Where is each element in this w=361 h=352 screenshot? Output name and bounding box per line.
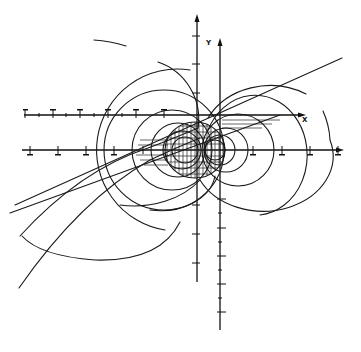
primary-y-arrow-icon bbox=[195, 14, 200, 22]
secondary-x-axis: X bbox=[23, 109, 308, 124]
field-diagram: Y X bbox=[0, 0, 361, 352]
arc-fragment bbox=[94, 40, 126, 46]
secondary-y-axis: Y bbox=[205, 38, 226, 330]
x-axis-label: X bbox=[302, 116, 308, 124]
primary-x-arrow-icon bbox=[336, 148, 344, 153]
y-axis-label: Y bbox=[205, 39, 212, 47]
secondary-y-arrow-icon bbox=[218, 38, 223, 46]
descending-trajectories bbox=[19, 128, 200, 288]
